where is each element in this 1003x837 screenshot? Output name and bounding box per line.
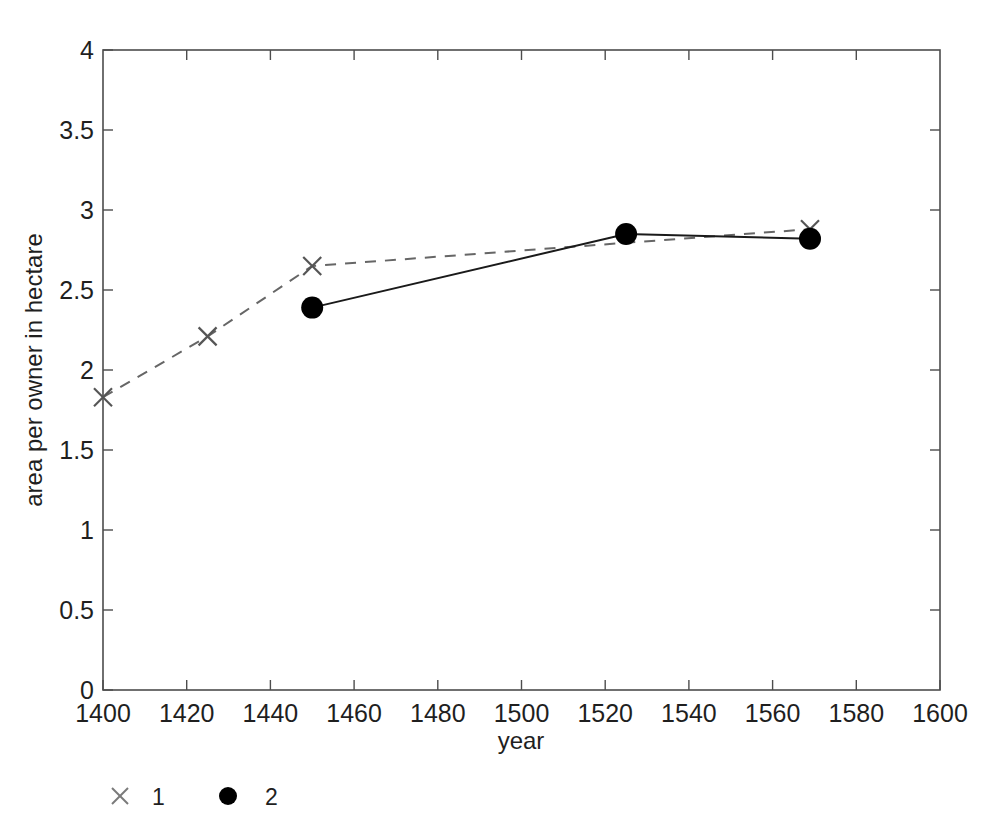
chart-canvas: 0 0.5 1 1.5 2 2.5 3 3.5 4 1400 1420 1440… <box>0 0 1003 837</box>
plot-frame <box>103 50 940 690</box>
x-tick-label: 1540 <box>661 699 717 727</box>
series-1-line <box>103 229 810 397</box>
legend-label: 2 <box>265 784 278 810</box>
dot-marker-icon <box>219 787 237 805</box>
y-tick-label: 2.5 <box>59 276 94 304</box>
data-point-marker <box>301 297 323 319</box>
y-tick-label: 0.5 <box>59 596 94 624</box>
y-tick-labels: 0 0.5 1 1.5 2 2.5 3 3.5 4 <box>59 36 94 704</box>
legend-label: 1 <box>152 784 165 810</box>
x-tick-label: 1480 <box>410 699 466 727</box>
x-tick-label: 1440 <box>243 699 299 727</box>
x-tick-label: 1420 <box>159 699 215 727</box>
y-tick-label: 1 <box>80 516 94 544</box>
chart-legend: 1 2 <box>112 784 278 810</box>
series-1-markers <box>94 220 819 406</box>
y-tick-label: 3 <box>80 196 94 224</box>
x-tick-label: 1400 <box>75 699 131 727</box>
x-tick-label: 1500 <box>494 699 550 727</box>
y-axis-ticks-right <box>930 130 940 610</box>
x-axis-ticks <box>103 680 940 690</box>
data-point-marker <box>799 228 821 250</box>
x-tick-label: 1460 <box>326 699 382 727</box>
x-tick-label: 1580 <box>828 699 884 727</box>
data-point-marker <box>615 223 637 245</box>
x-marker-icon <box>112 788 128 804</box>
x-axis-title: year <box>498 727 545 754</box>
y-axis-ticks <box>103 50 113 690</box>
series-2-line <box>312 234 810 308</box>
data-point-marker <box>303 257 321 275</box>
x-tick-labels: 1400 1420 1440 1460 1480 1500 1520 1540 … <box>75 699 968 727</box>
figure-container: 0 0.5 1 1.5 2 2.5 3 3.5 4 1400 1420 1440… <box>0 0 1003 837</box>
x-tick-label: 1600 <box>912 699 968 727</box>
y-tick-label: 4 <box>80 36 94 64</box>
x-tick-label: 1560 <box>745 699 801 727</box>
x-axis-ticks-top <box>187 50 857 60</box>
legend-entry-1: 1 <box>112 784 165 810</box>
data-point-marker <box>199 327 217 345</box>
y-axis-title: area per owner in hectare <box>20 233 47 507</box>
legend-entry-2: 2 <box>219 784 278 810</box>
x-tick-label: 1520 <box>577 699 633 727</box>
y-tick-label: 3.5 <box>59 116 94 144</box>
y-tick-label: 1.5 <box>59 436 94 464</box>
y-tick-label: 2 <box>80 356 94 384</box>
